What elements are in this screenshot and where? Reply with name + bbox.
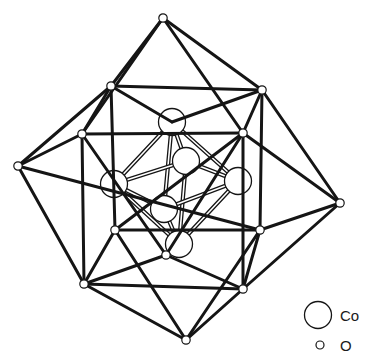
o-cage-bond xyxy=(111,86,115,230)
o-cage-bond xyxy=(82,86,111,134)
legend-co-label: Co xyxy=(340,307,359,324)
oxygen-atom-icon xyxy=(239,129,247,137)
oxygen-atom-icon xyxy=(80,280,88,288)
o-cage-bond xyxy=(260,203,340,230)
o-cage-bond xyxy=(84,284,243,289)
oxygen-atom-icon xyxy=(159,14,167,22)
oxygen-atom-icon xyxy=(107,82,115,90)
oxygen-cage-bonds xyxy=(18,18,340,340)
o-cage-bond xyxy=(243,203,340,289)
oxygen-atom-icon xyxy=(256,226,264,234)
legend-o-label: O xyxy=(340,337,352,354)
oxygen-atom-icon xyxy=(239,285,247,293)
legend-o-symbol-icon xyxy=(316,341,324,349)
o-cage-bond xyxy=(82,134,84,284)
o-cage-bond xyxy=(243,133,340,203)
oxygen-atom-icon xyxy=(111,226,119,234)
o-cage-bond xyxy=(84,284,186,340)
cobalt-atom-icon xyxy=(225,168,252,195)
o-cage-bond xyxy=(262,90,340,203)
oxygen-atom-icon xyxy=(336,199,344,207)
oxygen-atom-icon xyxy=(78,130,86,138)
o-cage-bond xyxy=(84,255,166,284)
oxygen-atom-icon xyxy=(14,162,22,170)
o-cage-bond xyxy=(260,90,262,230)
legend-co-symbol-icon xyxy=(305,302,332,329)
oxygen-atom-icon xyxy=(258,86,266,94)
oxygen-atom-icon xyxy=(182,336,190,344)
o-cage-bond xyxy=(163,18,262,90)
co6-o-cage-structure-diagram: Co O xyxy=(0,0,378,361)
legend: Co O xyxy=(305,302,360,355)
oxygen-atom-icon xyxy=(162,251,170,259)
o-cage-bond xyxy=(18,166,84,284)
o-cage-bond xyxy=(82,133,243,134)
o-cage-bond xyxy=(111,86,262,90)
o-cage-bond xyxy=(111,86,172,122)
